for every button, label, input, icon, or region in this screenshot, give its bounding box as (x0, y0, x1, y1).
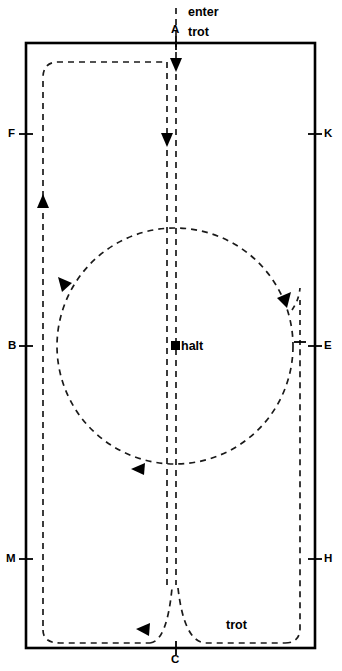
annotation-trot-top: trot (188, 26, 209, 39)
arrow-entry-top (170, 58, 182, 72)
arrow-circle-right (277, 292, 291, 308)
arrow-circle-bottom (131, 463, 145, 475)
letter-label-A: A (171, 24, 179, 36)
letter-label-B: B (8, 340, 16, 352)
circle-to-right-track (292, 288, 300, 310)
bottom-left-curve (43, 630, 150, 643)
letter-label-F: F (8, 128, 15, 140)
bottom-right-curve (285, 345, 300, 643)
arrow-left-track-up (37, 194, 49, 208)
rounded-rect-track (43, 62, 167, 630)
annotation-enter: enter (188, 6, 219, 19)
arrow-bottom-track (136, 623, 150, 636)
letter-label-K: K (324, 128, 332, 140)
annotation-halt: halt (181, 340, 203, 353)
letter-label-E: E (324, 340, 332, 352)
annotation-trot-bottom: trot (226, 619, 247, 632)
arrow-circle-left (58, 277, 72, 292)
dressage-diagram: A F K B E M H C enter trot halt trot (0, 0, 342, 671)
diagram-canvas (0, 0, 342, 671)
halt-marker-square (171, 341, 180, 350)
arrow-entry-mid (161, 133, 173, 147)
letter-label-M: M (6, 553, 16, 565)
letter-label-C: C (171, 654, 179, 666)
bottom-left-converge (150, 588, 172, 643)
bottom-right-converge (178, 588, 285, 643)
letter-label-H: H (324, 553, 332, 565)
